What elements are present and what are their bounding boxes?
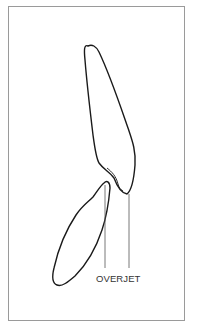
overjet-label: OVERJET	[96, 273, 141, 284]
lower-incisor-outline	[53, 182, 110, 286]
upper-incisor-outline	[84, 45, 135, 194]
